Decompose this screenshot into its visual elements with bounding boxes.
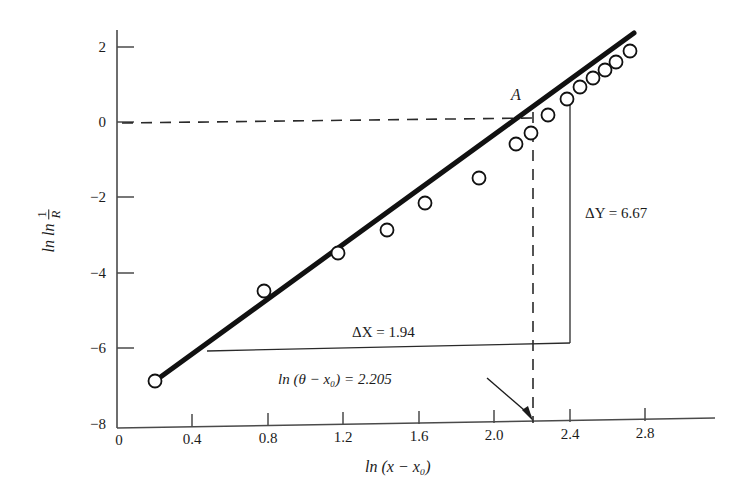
data-point [419, 197, 432, 210]
data-point [525, 127, 538, 140]
y-tick-label: −6 [72, 340, 106, 357]
x-axis-ticks [192, 408, 645, 427]
data-point [258, 285, 271, 298]
point-a-label: A [511, 86, 521, 104]
delta-y-label: ΔY = 6.67 [585, 205, 647, 222]
x-tick-label: 2.4 [561, 426, 580, 443]
theta-equation-label: ln (θ − x₀) = 2.205 [278, 371, 392, 388]
data-point [510, 138, 523, 151]
delta-x-leg [207, 343, 570, 351]
y-tick-label: −4 [72, 265, 106, 282]
y-tick-label: −2 [72, 189, 106, 206]
x-tick-label: 0.4 [183, 431, 202, 448]
data-point [587, 72, 600, 85]
y-tick-label: 0 [78, 114, 106, 131]
data-point [561, 93, 574, 106]
data-point [542, 109, 555, 122]
y-axis-ticks [117, 47, 134, 348]
y-axis-title-prefix: ln ln [40, 220, 57, 253]
data-point [624, 45, 637, 58]
x-axis-title: ln (x − x₀) [365, 458, 431, 476]
x-axis-line [117, 418, 715, 428]
x-tick-label: 0 [115, 432, 123, 449]
chart-figure: 2 0 −2 −4 −6 −8 0 0.4 0.8 1.2 1.6 2.0 2.… [0, 0, 748, 493]
x-tick-label: 2.8 [636, 425, 655, 442]
zero-reference-line [122, 118, 533, 123]
y-axis-title-fraction: 1R [35, 210, 63, 220]
data-point [149, 375, 162, 388]
delta-x-label: ΔX = 1.94 [352, 324, 415, 341]
y-tick-label: −8 [72, 416, 106, 433]
x-tick-label: 1.2 [334, 429, 353, 446]
data-point [381, 224, 394, 237]
data-point [473, 172, 486, 185]
data-point [332, 247, 345, 260]
data-point [610, 56, 623, 69]
x-tick-label: 0.8 [259, 430, 278, 447]
plot-canvas [0, 0, 748, 493]
x-tick-label: 1.6 [410, 428, 429, 445]
y-tick-label: 2 [78, 39, 106, 56]
x-tick-label: 2.0 [485, 427, 504, 444]
data-point [574, 81, 587, 94]
y-axis-title: ln ln 1R [30, 196, 70, 266]
